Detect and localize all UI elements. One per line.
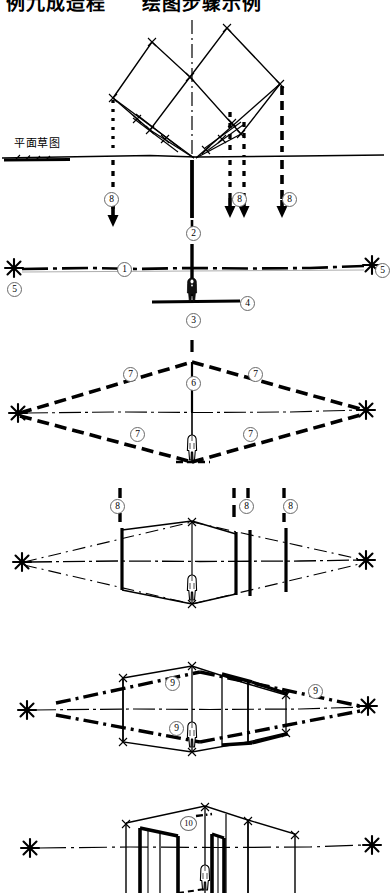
vanishing-point-right [357,551,375,569]
vanishing-point-left [21,839,39,857]
marker-1: 1 [117,262,132,277]
marker-4: 4 [240,296,255,311]
marker-2: 2 [186,226,201,241]
panel-2-horizon [5,244,381,302]
vanishing-point-right [363,836,381,854]
marker-8: 8 [232,192,247,207]
panel-3-floor-plane [9,340,375,462]
marker-6: 6 [186,376,201,391]
marker-8: 8 [283,499,298,514]
vanishing-point-right [359,697,377,715]
marker-9: 9 [308,684,323,699]
marker-5-left: 5 [7,282,22,297]
panel-4-verticals [13,488,375,608]
panel-6-final-building [21,803,381,893]
marker-8: 8 [110,499,125,514]
marker-8: 8 [104,192,119,207]
marker-8: 8 [239,499,254,514]
marker-9: 9 [169,721,184,736]
marker-7: 7 [243,427,258,442]
marker-9: 9 [165,676,180,691]
vanishing-point-left [18,701,36,719]
vanishing-point-left [5,259,23,277]
panel-1-plan-sketch [2,20,384,228]
panel-5-roof-lines [18,662,377,756]
marker-3: 3 [186,313,201,328]
marker-10: 10 [180,816,197,831]
marker-7: 7 [130,427,145,442]
vanishing-point-left [13,553,31,571]
marker-5-right: 5 [375,263,390,278]
marker-8: 8 [282,192,297,207]
marker-7: 7 [248,367,263,382]
marker-7: 7 [123,367,138,382]
